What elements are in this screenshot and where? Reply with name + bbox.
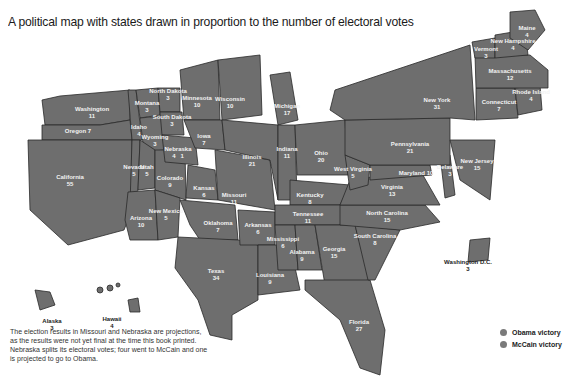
- label-delaware: Delaware3: [437, 164, 463, 178]
- label-rhodeisland: Rhode Island4: [512, 89, 550, 103]
- label-michigan: Michigan17: [274, 103, 300, 117]
- label-georgia: Georgia15: [323, 246, 346, 260]
- mccain-dot-icon: [500, 341, 507, 348]
- state-hawaii-shape: [128, 298, 140, 312]
- projection-note: The election results in Missouri and Neb…: [10, 327, 210, 363]
- label-ohio: Ohio20: [314, 150, 328, 164]
- label-illinois: Illinois21: [242, 154, 261, 168]
- label-mississippi: Mississippi6: [267, 236, 299, 250]
- label-newyork: New York31: [424, 97, 451, 111]
- label-washington: Washington11: [75, 106, 109, 120]
- label-kansas: Kansas6: [193, 185, 214, 199]
- label-westvirginia: West Virginia5: [334, 166, 372, 180]
- label-maine: Maine4: [518, 25, 535, 39]
- state-florida-shape: [305, 280, 385, 375]
- label-texas: Texas34: [208, 268, 225, 282]
- label-newhampshire: New Hampshire4: [490, 38, 535, 52]
- label-northcarolina: North Carolina15: [366, 210, 408, 224]
- label-oregon: Oregon 7: [65, 128, 91, 135]
- label-alabama: Alabama9: [289, 249, 314, 263]
- state-hawaii-island: [116, 283, 120, 287]
- label-southcarolina: South Carolina8: [354, 233, 397, 247]
- label-california: California55: [56, 174, 84, 188]
- state-alaska-shape: [35, 290, 55, 310]
- label-utah: Utah5: [140, 164, 153, 178]
- state-hawaii-island: [107, 285, 113, 291]
- label-southdakota: South Dakota3: [153, 114, 192, 128]
- label-nebraska: Nebraska4 1: [164, 146, 191, 160]
- label-massachusetts: Massachusetts12: [488, 68, 531, 82]
- label-pennsylvania: Pennsylvania21: [391, 141, 429, 155]
- state-newyork-shape: [330, 45, 475, 120]
- label-kentucky: Kentucky8: [296, 192, 323, 206]
- state-wisconsin-shape: [218, 55, 262, 120]
- label-montana: Montana3: [135, 100, 160, 114]
- label-wisconsin: Wisconsin10: [215, 96, 245, 110]
- label-tennessee: Tennessee11: [293, 211, 324, 225]
- label-colorado: Colorado9: [157, 175, 183, 189]
- label-virginia: Virginia13: [381, 184, 403, 198]
- obama-dot-icon: [500, 329, 507, 336]
- label-iowa: Iowa7: [197, 133, 210, 147]
- state-michigan-shape: [270, 72, 298, 125]
- label-missouri: Missouri11: [222, 192, 247, 206]
- label-louisiana: Louisiana9: [256, 272, 284, 286]
- legend: Obama victory McCain victory: [500, 326, 562, 350]
- state-california-shape: [28, 140, 132, 245]
- state-texas-shape: [175, 237, 258, 340]
- label-washington-dc: Washington D.C.3: [444, 259, 492, 273]
- legend-item-mccain: McCain victory: [500, 338, 562, 350]
- label-newjersey: New Jersey15: [460, 158, 493, 172]
- label-newmexico: New Mexico5: [149, 208, 183, 222]
- label-florida: Florida27: [349, 319, 369, 333]
- state-hawaii-island: [97, 287, 103, 293]
- label-minnesota: Minnesota10: [182, 95, 212, 109]
- label-indiana: Indiana11: [276, 146, 297, 160]
- label-maryland: Maryland 10: [399, 170, 434, 177]
- label-oklahoma: Oklahoma7: [203, 220, 232, 234]
- label-arkansas: Arkansas6: [244, 222, 271, 236]
- legend-item-obama: Obama victory: [500, 326, 562, 338]
- label-connecticut: Connecticut7: [482, 99, 517, 113]
